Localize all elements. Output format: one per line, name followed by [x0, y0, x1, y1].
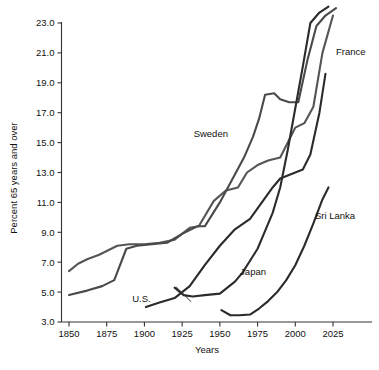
x-tick-label: 2025 — [322, 328, 343, 339]
series-label-japan: Japan — [240, 266, 266, 277]
y-tick-group: 3.05.07.09.011.013.015.017.019.021.023.0 — [36, 17, 62, 327]
series-line-sweden — [69, 8, 336, 295]
x-tick-label: 2000 — [285, 328, 306, 339]
y-tick-label: 23.0 — [36, 17, 55, 28]
y-axis-title: Percent 65 years and over — [8, 122, 19, 233]
x-tick-label: 1900 — [134, 328, 155, 339]
y-tick-label: 11.0 — [37, 197, 55, 208]
x-tick-label: 1975 — [247, 328, 268, 339]
x-axis-title: Years — [195, 344, 219, 355]
series-group — [69, 7, 336, 316]
series-line-france — [69, 16, 333, 272]
y-tick-label: 17.0 — [36, 107, 55, 118]
y-tick-label: 15.0 — [36, 137, 55, 148]
y-tick-label: 9.0 — [41, 227, 54, 238]
series-label-group: FranceSwedenU.S.JapanSri Lanka — [132, 46, 365, 304]
y-tick-label: 5.0 — [41, 287, 54, 298]
x-tick-label: 1925 — [172, 328, 193, 339]
series-label-france: France — [336, 46, 366, 57]
line-chart-figure: 3.05.07.09.011.013.015.017.019.021.023.0… — [0, 0, 379, 370]
series-line-u-s — [146, 74, 326, 307]
y-tick-label: 3.0 — [41, 316, 54, 327]
axis-group — [62, 22, 373, 322]
series-label-sri-lanka: Sri Lanka — [315, 210, 356, 221]
y-tick-label: 7.0 — [41, 257, 54, 268]
chart-canvas: 3.05.07.09.011.013.015.017.019.021.023.0… — [0, 0, 379, 370]
x-tick-label: 1875 — [96, 328, 117, 339]
x-tick-label: 1950 — [209, 328, 230, 339]
y-tick-label: 13.0 — [36, 167, 55, 178]
y-tick-label: 19.0 — [36, 77, 55, 88]
y-tick-label: 21.0 — [36, 47, 55, 58]
series-label-sweden: Sweden — [194, 128, 228, 139]
series-label-u-s: U.S. — [132, 293, 150, 304]
x-tick-group: 18501875190019251950197520002025 — [58, 322, 343, 339]
x-tick-label: 1850 — [58, 328, 79, 339]
series-line-japan — [175, 7, 329, 297]
